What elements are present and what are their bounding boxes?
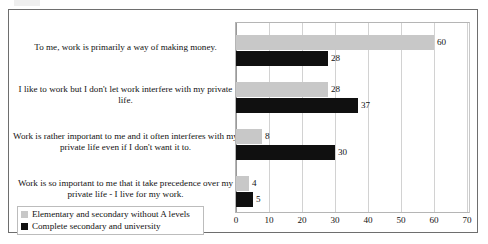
x-tick-30: 30 [330, 215, 339, 225]
bar-value-series1-cat2: 30 [338, 145, 347, 160]
legend-item-1[interactable]: Complete secondary and university [21, 220, 200, 232]
bar-series1-cat0[interactable] [236, 51, 328, 66]
plot-area: 60 28 28 37 8 30 4 5 [235, 22, 470, 213]
x-axis: 0 10 20 30 40 50 60 70 [235, 215, 470, 231]
legend-swatch-icon-1 [21, 223, 28, 230]
x-tick-50: 50 [396, 215, 405, 225]
bar-series1-cat3[interactable] [236, 192, 253, 207]
legend-label-0: Elementary and secondary without A level… [32, 208, 190, 220]
legend-item-0[interactable]: Elementary and secondary without A level… [21, 208, 200, 220]
category-label-2: I like to work but I don't let work inte… [13, 84, 238, 107]
chart-frame: To me, work is primarily a way of making… [8, 9, 478, 233]
category-label-1: To me, work is primarily a way of making… [13, 42, 238, 53]
bar-value-series1-cat0: 28 [331, 51, 340, 66]
x-tick-40: 40 [363, 215, 372, 225]
bar-value-series1-cat1: 37 [361, 98, 370, 113]
bar-value-series0-cat0: 60 [437, 35, 446, 50]
scan-artifact [14, 0, 40, 6]
category-axis-labels: To me, work is primarily a way of making… [13, 10, 238, 204]
legend-swatch-icon-0 [21, 211, 28, 218]
legend-label-1: Complete secondary and university [32, 220, 161, 232]
bar-series0-cat2[interactable] [236, 129, 262, 144]
category-label-3: Work is rather important to me and it of… [13, 131, 238, 154]
gridline-70 [467, 23, 468, 212]
bar-value-series0-cat1: 28 [331, 82, 340, 97]
bar-value-series0-cat3: 4 [252, 176, 257, 191]
bar-series0-cat3[interactable] [236, 176, 249, 191]
bar-value-series0-cat2: 8 [265, 129, 270, 144]
x-tick-0: 0 [234, 215, 239, 225]
gridline-40 [368, 23, 369, 212]
chart-legend: Elementary and secondary without A level… [17, 206, 204, 235]
x-tick-10: 10 [264, 215, 273, 225]
gridline-60 [434, 23, 435, 212]
x-tick-20: 20 [297, 215, 306, 225]
x-tick-70: 70 [462, 215, 471, 225]
category-label-4: Work is so important to me that it take … [13, 178, 238, 201]
bar-series0-cat1[interactable] [236, 82, 328, 97]
bar-series1-cat2[interactable] [236, 145, 335, 160]
gridline-50 [401, 23, 402, 212]
x-tick-60: 60 [429, 215, 438, 225]
bar-value-series1-cat3: 5 [256, 192, 261, 207]
bar-series0-cat0[interactable] [236, 35, 434, 50]
bar-series1-cat1[interactable] [236, 98, 358, 113]
